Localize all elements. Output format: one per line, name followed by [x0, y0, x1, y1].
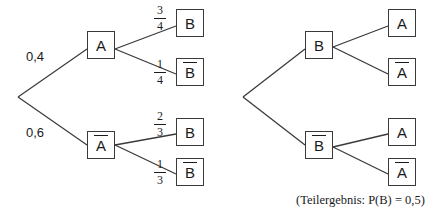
- tree-edges: [0, 0, 444, 211]
- fraction-numerator: 2: [152, 110, 168, 123]
- node-right-b-bar: B: [305, 131, 333, 159]
- node-right-leaf-a-bar-1: A: [388, 58, 416, 86]
- node-label: B: [184, 16, 196, 31]
- figure-caption: (Teilergebnis: P(B) = 0,5): [296, 193, 425, 208]
- fraction-denominator: 3: [152, 174, 168, 187]
- node-left-a: A: [87, 31, 115, 59]
- edge-right-bbar-to-a: [333, 134, 388, 147]
- node-right-b: B: [305, 31, 333, 59]
- edge-right-b-to-abar: [333, 47, 388, 74]
- fraction-denominator: 4: [152, 74, 168, 87]
- node-left-leaf-b-1: B: [176, 9, 204, 37]
- node-right-leaf-a-2: A: [388, 118, 416, 146]
- edge-label-fraction-1-3: 1 3: [152, 158, 168, 186]
- edge-label-fraction-3-4: 3 4: [152, 4, 168, 32]
- edge-right-b-to-a: [333, 26, 388, 47]
- edge-label-p-a-bar: 0,6: [26, 125, 44, 140]
- node-label: B: [184, 65, 196, 80]
- node-label: A: [396, 65, 408, 80]
- node-left-a-bar: A: [87, 131, 115, 159]
- edge-label-p-a: 0,4: [26, 49, 44, 64]
- node-left-leaf-b-2: B: [176, 118, 204, 146]
- node-label: A: [396, 165, 408, 180]
- probability-tree-figure: A A B B B B 0,4 0,6 3 4 1 4 2 3 1 3 B B: [0, 0, 444, 211]
- node-label: A: [95, 138, 107, 153]
- edge-label-fraction-1-4: 1 4: [152, 58, 168, 86]
- fraction-numerator: 3: [152, 4, 168, 17]
- fraction-denominator: 3: [152, 126, 168, 139]
- node-label: B: [313, 138, 325, 153]
- node-label: A: [396, 125, 408, 140]
- node-left-leaf-b-bar-2: B: [176, 158, 204, 186]
- edge-label-fraction-2-3: 2 3: [152, 110, 168, 138]
- edge-right-root-to-bbar: [243, 97, 305, 145]
- fraction-numerator: 1: [152, 158, 168, 171]
- node-right-leaf-a-1: A: [388, 9, 416, 37]
- edge-right-bbar-to-abar: [333, 147, 388, 174]
- node-label: B: [313, 38, 325, 53]
- node-label: A: [95, 38, 107, 53]
- node-label: B: [184, 125, 196, 140]
- node-label: B: [184, 165, 196, 180]
- node-right-leaf-a-bar-2: A: [388, 158, 416, 186]
- fraction-numerator: 1: [152, 58, 168, 71]
- edge-right-root-to-b: [243, 49, 305, 97]
- fraction-denominator: 4: [152, 20, 168, 33]
- node-label: A: [396, 16, 408, 31]
- node-left-leaf-b-bar-1: B: [176, 58, 204, 86]
